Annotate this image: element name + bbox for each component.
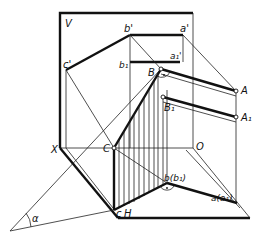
label-B1: B₁	[164, 102, 175, 113]
label-B: B	[148, 67, 155, 78]
label-c: c	[116, 208, 122, 219]
projection-diagram: V b' a' c' b₁ a₁' B A B₁ A₁ C X O b(b₁) …	[0, 0, 260, 242]
line-b-prime-B	[130, 35, 161, 69]
label-a1-prime: a₁'	[170, 51, 182, 61]
line-c-prime-C	[66, 70, 114, 148]
h-plane-left-edge-outer	[60, 148, 118, 218]
label-A1: A₁	[240, 112, 252, 123]
point-B	[159, 67, 163, 71]
right-angle-dot-B	[163, 74, 165, 76]
alpha-arc	[26, 213, 31, 227]
label-b-b1: b(b₁)	[164, 173, 186, 183]
label-c-prime: c'	[63, 59, 71, 70]
line-B-A-inner	[161, 74, 236, 96]
label-H: H	[124, 208, 132, 219]
point-A1	[234, 115, 238, 119]
label-C: C	[103, 143, 110, 154]
label-X: X	[50, 144, 59, 155]
alpha-line-lower	[10, 210, 114, 231]
h-plane-right-edge	[193, 148, 250, 218]
label-b-prime: b'	[124, 23, 133, 34]
label-a-prime: a'	[180, 23, 189, 34]
h-plane-left-edge-inner	[66, 148, 113, 208]
label-V: V	[65, 18, 73, 29]
line-b-O	[114, 148, 167, 183]
point-B1	[161, 95, 165, 99]
label-alpha: α	[32, 213, 39, 224]
label-A: A	[240, 85, 248, 96]
label-a-a1: a(a₁)	[211, 193, 233, 203]
label-O: O	[196, 141, 204, 152]
line-c-b	[114, 183, 167, 210]
point-A	[234, 89, 238, 93]
label-b1: b₁	[119, 60, 129, 70]
line-B-A	[161, 69, 236, 91]
alpha-line-upper	[10, 69, 161, 231]
point-C	[112, 146, 116, 150]
right-angle-dot-b	[166, 187, 168, 189]
